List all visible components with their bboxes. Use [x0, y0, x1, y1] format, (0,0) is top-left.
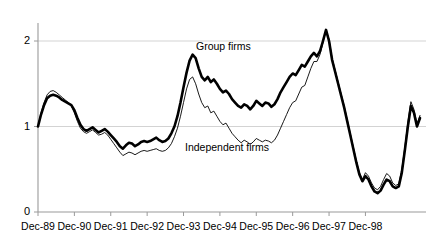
- y-axis-label: 2: [8, 35, 30, 46]
- x-axis-ticks: [38, 212, 365, 216]
- data-series-layer: [38, 30, 420, 193]
- series-line-group-firms: [38, 30, 420, 193]
- line-chart-plot: [0, 0, 436, 243]
- gridlines: [38, 41, 426, 127]
- series-line-independent-firms: [38, 30, 420, 190]
- series-annotation-group-firms: Group firms: [196, 40, 251, 52]
- series-annotation-independent-firms: Independent firms: [185, 141, 269, 153]
- y-axis-label: 1: [8, 121, 30, 132]
- x-axis-label: Dec-98: [339, 221, 391, 232]
- y-axis-label: 0: [8, 206, 30, 217]
- chart-container: 012 Dec-89Dec-90Dec-91Dec-92Dec-93Dec-94…: [0, 0, 436, 243]
